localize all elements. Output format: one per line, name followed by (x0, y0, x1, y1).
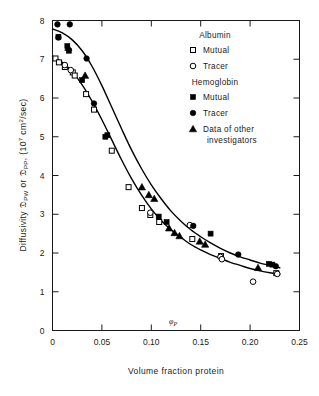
fitted-curves (53, 29, 280, 274)
marker-open-square (190, 237, 195, 242)
y-axis-title: Diffusivity 𝔇PW or 𝔇PP, (107 cm2/sec) (18, 98, 29, 251)
y-axis-tick-labels: 012345678 (40, 16, 45, 336)
x-tick-label: 0.10 (143, 337, 160, 347)
svg-text:Diffusivity 𝔇PW or 𝔇PP, (107: Diffusivity 𝔇PW or 𝔇PP, (107 cm2/sec) (18, 98, 29, 251)
x-tick-label: 0 (50, 337, 55, 347)
marker-open-square (56, 60, 61, 65)
legend-label: Mutual (203, 46, 229, 55)
marker-filled-triangle (145, 191, 152, 197)
marker-open-square (191, 48, 196, 53)
legend-heading: Hemoglobin (192, 78, 239, 87)
series-albumin-mutual (53, 56, 279, 276)
marker-filled-triangle (196, 238, 203, 244)
x-axis-ticks (53, 21, 300, 331)
y-tick-label: 0 (40, 326, 45, 336)
marker-filled-triangle (138, 184, 145, 190)
marker-open-square (139, 206, 144, 211)
marker-open-circle (250, 279, 256, 285)
legend-label: Data of other (203, 125, 254, 134)
marker-filled-square (191, 95, 196, 100)
chart-legend: AlbuminMutualTracerHemoglobinMutualTrace… (189, 31, 256, 145)
legend-label: Tracer (203, 62, 228, 71)
x-tick-label: 0.20 (242, 337, 259, 347)
hemoglobin-curve (53, 29, 280, 268)
x-tick-label: 0.05 (94, 337, 111, 347)
y-axis-ticks (53, 21, 300, 331)
marker-filled-square (105, 133, 110, 138)
marker-filled-circle (91, 101, 97, 107)
marker-filled-circle (67, 22, 73, 28)
y-tick-label: 7 (40, 54, 45, 64)
marker-filled-circle (190, 110, 196, 116)
marker-filled-circle (190, 223, 196, 229)
y-tick-label: 2 (40, 248, 45, 258)
marker-filled-square (164, 220, 169, 225)
marker-open-square (84, 92, 89, 97)
figure-container: 012345678 00.050.100.150.200.25 φP Volum… (0, 0, 319, 396)
marker-filled-square (156, 214, 161, 219)
y-tick-label: 3 (40, 209, 45, 219)
marker-filled-triangle (254, 264, 261, 270)
series-albumin-tracer (62, 62, 280, 284)
legend-label-cont: investigators (207, 136, 257, 145)
y-tick-label: 8 (40, 16, 45, 26)
marker-open-circle (274, 271, 280, 277)
diffusivity-scatter-chart: 012345678 00.050.100.150.200.25 φP Volum… (0, 0, 319, 396)
marker-open-square (126, 185, 131, 190)
data-points (53, 22, 280, 285)
x-axis-tick-labels: 00.050.100.150.200.25 (50, 337, 308, 347)
y-tick-label: 4 (40, 171, 45, 181)
marker-open-circle (62, 62, 68, 68)
marker-open-circle (148, 210, 154, 216)
series-hemoglobin-tracer (55, 22, 279, 269)
legend-heading: Albumin (199, 31, 231, 40)
marker-filled-circle (56, 35, 62, 41)
marker-filled-triangle (82, 72, 89, 78)
x-tick-label: 0.15 (192, 337, 209, 347)
x-tick-label: 0.25 (291, 337, 308, 347)
marker-filled-triangle (189, 125, 196, 131)
y-tick-label: 1 (40, 287, 45, 297)
marker-filled-circle (84, 56, 90, 62)
x-axis-title: Volume fraction protein (128, 366, 224, 376)
legend-label: Mutual (203, 93, 229, 102)
marker-open-square (91, 107, 96, 112)
albumin-curve (53, 56, 280, 274)
marker-open-circle (190, 63, 196, 69)
marker-open-circle (219, 256, 225, 262)
marker-open-square (157, 220, 162, 225)
marker-open-circle (68, 67, 74, 73)
marker-filled-circle (55, 22, 61, 28)
marker-filled-circle (273, 263, 279, 269)
marker-filled-circle (235, 252, 241, 258)
marker-open-square (72, 73, 77, 78)
series-hemoglobin-mutual (56, 34, 275, 267)
plot-frame (53, 21, 300, 331)
y-tick-label: 5 (40, 132, 45, 142)
svg-text:Volume fraction protein: Volume fraction protein (128, 366, 224, 376)
y-tick-label: 6 (40, 93, 45, 103)
phi-p-annotation: φP (169, 317, 177, 327)
marker-filled-square (208, 231, 213, 236)
chart-annotations: φP (169, 317, 177, 327)
marker-open-square (109, 148, 114, 153)
legend-label: Tracer (203, 109, 228, 118)
